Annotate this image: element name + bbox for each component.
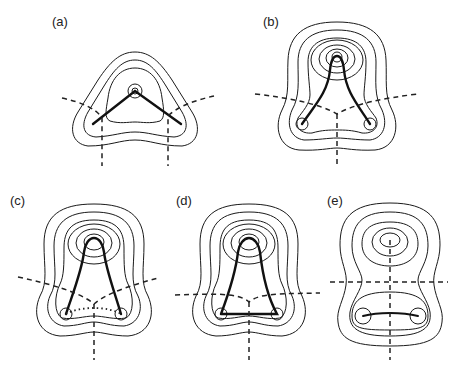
- panel-b: (b): [255, 14, 418, 165]
- panel-label-d: (d): [176, 193, 192, 208]
- panel-a: (a): [52, 14, 214, 166]
- panel-c: (c): [10, 193, 158, 360]
- panel-label-a: (a): [52, 14, 68, 29]
- panel-label-c: (c): [10, 193, 25, 208]
- panel-d: (d): [175, 193, 320, 360]
- figure-canvas: (a) (b) (c): [0, 0, 463, 370]
- panel-e: (e): [327, 193, 448, 360]
- panel-label-e: (e): [327, 193, 343, 208]
- panel-label-b: (b): [263, 14, 279, 29]
